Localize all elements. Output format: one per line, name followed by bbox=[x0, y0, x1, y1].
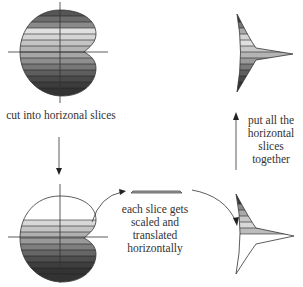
partial-arrowhead bbox=[230, 194, 300, 274]
final-arrowhead bbox=[230, 14, 300, 92]
original-shape bbox=[0, 2, 120, 103]
label-put-together: put all the horizontal slices together bbox=[238, 114, 303, 166]
partial-shape bbox=[0, 184, 120, 283]
down-arrow bbox=[56, 137, 62, 175]
label-scale-and-translate: each slice gets scaled and translated ho… bbox=[110, 203, 200, 255]
label-cut-into-slices: cut into horizonal slices bbox=[6, 109, 116, 122]
single-slice bbox=[131, 191, 182, 193]
